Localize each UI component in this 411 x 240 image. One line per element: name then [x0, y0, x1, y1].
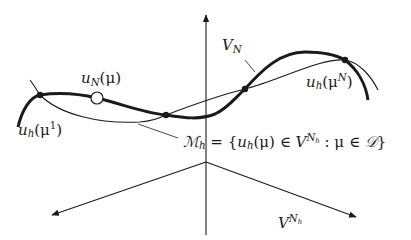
h-sub-subscript: h: [298, 218, 302, 226]
mu-in: (μ) ∈: [253, 133, 295, 151]
N-subscript: N: [233, 44, 242, 55]
label-u_h-muN: uh(μN): [306, 73, 353, 91]
V_N-leader-line: [245, 60, 255, 72]
V-symbol: V: [296, 133, 307, 151]
rb-solution-point: [91, 92, 103, 104]
u-symbol: u: [81, 69, 91, 87]
u-symbol: u: [237, 133, 247, 151]
M-script-symbol: ℳ: [183, 133, 199, 151]
label-V_N: VN: [222, 38, 242, 55]
close-paren: ): [56, 121, 62, 139]
mu-argument: (μ): [100, 69, 121, 87]
u-symbol: u: [306, 73, 316, 91]
snapshot-point-N: [342, 57, 348, 63]
left-axis: [52, 162, 206, 215]
label-manifold-definition: ℳh = {uh(μ) ∈ VNh : μ ∈ 𝒟}: [183, 133, 386, 151]
snapshot-point-3: [242, 86, 248, 92]
open-paren-mu: (μ: [34, 121, 50, 139]
close-paren: ): [347, 73, 353, 91]
N-superscript: N: [289, 213, 298, 224]
snapshot-point-1: [37, 92, 43, 98]
label-u_N-mu: uN(μ): [81, 71, 121, 88]
snapshot-point-2: [163, 112, 169, 118]
V-symbol: V: [278, 214, 289, 232]
right-axis: [206, 162, 356, 217]
label-u_h-mu1: uh(μ1): [18, 121, 62, 139]
manifold-leader-line: [138, 124, 178, 138]
label-V_Nh: VNh: [278, 214, 302, 231]
such-that-mu-in: : μ ∈: [320, 133, 365, 151]
superscript-N: N: [338, 72, 347, 83]
close-brace: }: [377, 133, 387, 151]
open-paren-mu: (μ: [322, 73, 338, 91]
u-symbol: u: [18, 121, 28, 139]
V-symbol: V: [222, 36, 233, 54]
D-script-symbol: 𝒟: [365, 133, 377, 151]
N-superscript: N: [306, 132, 315, 143]
N-subscript: N: [91, 77, 100, 88]
equals-brace: = {: [206, 133, 238, 151]
